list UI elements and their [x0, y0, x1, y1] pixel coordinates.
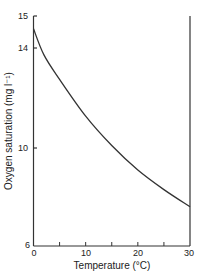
x-tick-labels: 0 10 20 30	[31, 248, 194, 258]
svg-text:6: 6	[25, 240, 30, 250]
svg-text:10: 10	[18, 143, 28, 153]
svg-text:30: 30	[184, 248, 194, 258]
svg-text:14: 14	[18, 43, 28, 53]
svg-text:20: 20	[133, 248, 143, 258]
chart: 15 14 10 6 0 10 20 30 Temperature (°C) O…	[0, 0, 203, 274]
y-axis-title: Oxygen saturation (mg l⁻¹)	[3, 72, 14, 190]
oxygen-curve	[34, 29, 191, 207]
plot-frame	[34, 16, 191, 246]
x-axis-title: Temperature (°C)	[74, 260, 151, 271]
y-tick-labels: 15 14 10 6	[18, 11, 30, 250]
svg-text:10: 10	[81, 248, 91, 258]
svg-text:15: 15	[18, 11, 28, 21]
svg-text:0: 0	[31, 248, 36, 258]
